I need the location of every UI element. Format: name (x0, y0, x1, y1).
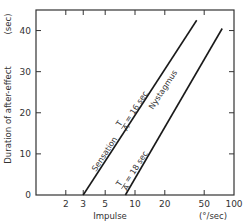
x-tick-label: 20 (159, 199, 171, 209)
y-axis-unit: (sec) (3, 14, 13, 35)
y-tick-label: 10 (20, 149, 32, 159)
y-tick-label: 40 (20, 26, 32, 36)
y-tick-label: 30 (20, 67, 32, 77)
svg-text:= 16 sec: = 16 sec (123, 89, 150, 124)
nystagmus-line (125, 29, 222, 196)
x-tick-label: 5 (102, 199, 108, 209)
x-tick-label: 10 (129, 199, 141, 209)
y-tick-label: 20 (20, 108, 32, 118)
sensation-time-constant: T A = 16 sec (114, 87, 152, 134)
x-axis-unit: (°/sec) (199, 211, 227, 221)
x-axis-label: Impulse (93, 211, 127, 221)
x-tick-label: 2 (63, 199, 69, 209)
y-axis-label: Duration of after-effect (3, 66, 13, 164)
y-tick-label: 0 (25, 190, 31, 200)
svg-text:= 18 sec: = 18 sec (123, 149, 150, 184)
x-tick-label: 100 (225, 199, 242, 209)
chart: 010203040 235102050100 Duration of after… (0, 0, 245, 224)
sensation-label: Sensation (90, 135, 119, 173)
x-tick-label: 3 (80, 199, 86, 209)
x-tick-label: 50 (198, 199, 210, 209)
nystagmus-time-constant: T A = 18 sec (114, 147, 152, 194)
